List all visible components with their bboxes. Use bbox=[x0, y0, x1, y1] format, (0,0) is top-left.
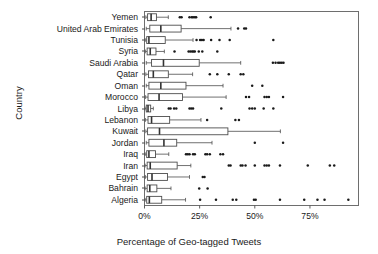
y-tick-label-iran: Iran bbox=[123, 161, 138, 170]
y-tick-label-tunisia: Tunisia bbox=[111, 36, 138, 45]
outlier-point bbox=[238, 119, 241, 122]
outlier-point bbox=[220, 107, 223, 110]
y-tick-mark bbox=[142, 17, 145, 18]
y-tick-mark bbox=[142, 40, 145, 41]
y-tick-mark bbox=[142, 28, 145, 29]
outlier-point bbox=[251, 107, 254, 110]
outlier-point bbox=[209, 16, 212, 19]
outlier-point bbox=[263, 164, 266, 167]
outlier-point bbox=[216, 73, 219, 76]
outlier-point bbox=[188, 16, 191, 19]
y-tick-mark bbox=[142, 131, 145, 132]
outlier-point bbox=[282, 62, 285, 64]
y-tick-label-egypt: Egypt bbox=[116, 173, 138, 182]
y-axis-tick-labels: YemenUnited Arab EmiratesTunisiaSyriaSau… bbox=[14, 0, 142, 205]
outlier-point bbox=[274, 62, 277, 64]
y-tick-mark bbox=[142, 188, 145, 189]
outlier-point bbox=[272, 107, 275, 110]
outlier-point bbox=[206, 153, 209, 156]
x-axis-title: Percentage of Geo-tagged Tweets bbox=[0, 236, 378, 247]
outlier-point bbox=[201, 50, 204, 53]
outlier-point bbox=[279, 199, 282, 202]
outlier-point bbox=[169, 107, 172, 110]
outlier-point bbox=[202, 39, 205, 42]
outlier-point bbox=[198, 187, 201, 190]
outlier-point bbox=[209, 73, 212, 76]
y-tick-mark bbox=[142, 51, 145, 52]
box bbox=[147, 162, 177, 169]
outlier-point bbox=[248, 96, 251, 99]
outlier-point bbox=[329, 164, 332, 167]
box bbox=[147, 185, 157, 192]
y-tick-label-iraq: Iraq bbox=[123, 150, 138, 159]
outlier-point bbox=[279, 164, 282, 167]
outlier-point bbox=[209, 153, 212, 156]
outlier-point bbox=[272, 62, 275, 64]
y-tick-label-saudi-arabia: Saudi Arabia bbox=[89, 59, 138, 68]
outlier-point bbox=[188, 153, 191, 156]
outlier-point bbox=[265, 164, 268, 167]
outlier-point bbox=[195, 39, 198, 42]
outlier-point bbox=[254, 141, 256, 144]
outlier-point bbox=[245, 27, 248, 30]
outlier-point bbox=[199, 199, 202, 202]
outlier-point bbox=[272, 39, 275, 42]
outlier-point bbox=[195, 16, 198, 19]
outlier-point bbox=[218, 39, 221, 42]
outlier-point bbox=[251, 84, 254, 87]
outlier-point bbox=[347, 199, 350, 202]
y-tick-mark bbox=[142, 62, 145, 63]
outlier-point bbox=[203, 176, 206, 179]
outlier-point bbox=[303, 199, 306, 202]
y-tick-label-united-arab-emirates: United Arab Emirates bbox=[57, 24, 138, 33]
y-tick-mark bbox=[142, 108, 145, 109]
outlier-point bbox=[173, 50, 176, 53]
outlier-point bbox=[194, 153, 197, 156]
outlier-point bbox=[231, 199, 234, 202]
outlier-point bbox=[219, 153, 222, 156]
outlier-point bbox=[263, 96, 266, 99]
box bbox=[147, 48, 156, 55]
box bbox=[149, 139, 177, 146]
outlier-point bbox=[239, 73, 242, 76]
box bbox=[148, 71, 168, 78]
outlier-point bbox=[333, 164, 336, 167]
outlier-point bbox=[216, 50, 219, 53]
outlier-point bbox=[173, 107, 176, 110]
y-tick-label-oman: Oman bbox=[115, 81, 138, 90]
outlier-point bbox=[192, 107, 195, 110]
y-tick-mark bbox=[142, 97, 145, 98]
outlier-point bbox=[248, 107, 251, 110]
outlier-point bbox=[268, 164, 271, 167]
outlier-point bbox=[206, 187, 209, 190]
outlier-point bbox=[198, 50, 201, 53]
outlier-point bbox=[234, 119, 237, 122]
outlier-point bbox=[175, 107, 178, 110]
outlier-point bbox=[268, 96, 271, 99]
outlier-point bbox=[206, 119, 209, 122]
outlier-point bbox=[254, 164, 256, 167]
outlier-point bbox=[261, 84, 264, 87]
outlier-point bbox=[237, 27, 240, 30]
y-tick-label-kuwait: Kuwait bbox=[112, 127, 138, 136]
outlier-point bbox=[222, 153, 225, 156]
y-tick-label-yemen: Yemen bbox=[112, 13, 138, 22]
y-tick-label-lebanon: Lebanon bbox=[105, 116, 138, 125]
y-tick-mark bbox=[142, 85, 145, 86]
y-tick-label-morocco: Morocco bbox=[105, 93, 138, 102]
y-tick-label-qatar: Qatar bbox=[117, 70, 139, 79]
y-tick-mark bbox=[142, 176, 145, 177]
outlier-point bbox=[307, 164, 310, 167]
outlier-point bbox=[229, 164, 232, 167]
y-tick-mark bbox=[142, 165, 145, 166]
box bbox=[147, 151, 156, 158]
y-tick-label-syria: Syria bbox=[118, 47, 138, 56]
outlier-point bbox=[262, 107, 265, 110]
y-tick-label-bahrain: Bahrain bbox=[108, 184, 138, 193]
outlier-point bbox=[241, 164, 244, 167]
box bbox=[150, 25, 181, 32]
outlier-point bbox=[265, 96, 268, 99]
outlier-point bbox=[254, 107, 256, 110]
outlier-point bbox=[323, 199, 326, 202]
y-tick-mark bbox=[142, 142, 145, 143]
